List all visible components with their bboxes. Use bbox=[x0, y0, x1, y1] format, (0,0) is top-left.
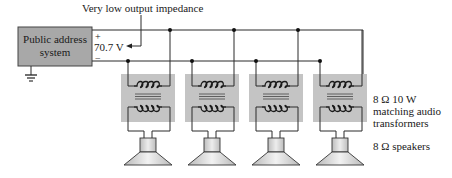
buses bbox=[92, 30, 363, 74]
junction-dot bbox=[296, 28, 300, 32]
speaker-cone bbox=[316, 152, 364, 165]
junction-dot bbox=[232, 28, 236, 32]
source-label-line1: Public address bbox=[23, 33, 87, 45]
source-label-line2: system bbox=[40, 46, 71, 58]
minus-sign: − bbox=[95, 53, 101, 64]
public-address-system: Public address system bbox=[18, 27, 92, 66]
junction-dot bbox=[254, 59, 258, 63]
plus-bus bbox=[92, 30, 363, 74]
transformer-speaker-unit bbox=[249, 28, 303, 165]
ground-symbol-icon bbox=[25, 66, 37, 81]
speaker-magnet bbox=[268, 138, 284, 152]
speaker-icon bbox=[188, 138, 236, 165]
speaker-label: 8 Ω speakers bbox=[373, 140, 430, 152]
speaker-magnet bbox=[204, 138, 220, 152]
speaker-cone bbox=[188, 152, 236, 165]
junction-dot bbox=[126, 59, 130, 63]
speaker-cone bbox=[124, 152, 172, 165]
junction-dot bbox=[318, 59, 322, 63]
speaker-icon bbox=[124, 138, 172, 165]
speaker-icon bbox=[252, 138, 300, 165]
transformer-block bbox=[185, 74, 239, 122]
speaker-icon bbox=[316, 138, 364, 165]
transformer-block bbox=[313, 74, 367, 122]
transformer-block bbox=[121, 74, 175, 122]
output-voltage: 70.7 V bbox=[94, 41, 124, 53]
junction-dot bbox=[168, 28, 172, 32]
transformer-speaker-unit bbox=[121, 28, 175, 165]
transformer-label-line3: transformers bbox=[373, 117, 429, 129]
public-address-diagram: Public address system + 70.7 V − Very lo… bbox=[0, 0, 452, 178]
speaker-magnet bbox=[140, 138, 156, 152]
speaker-magnet bbox=[332, 138, 348, 152]
output-terminals: + 70.7 V − bbox=[94, 31, 124, 64]
arrowhead-icon bbox=[126, 44, 132, 49]
transformer-block bbox=[249, 74, 303, 122]
transformer-label-line1: 8 Ω 10 W bbox=[373, 93, 417, 105]
junction-dot bbox=[190, 59, 194, 63]
speaker-cone bbox=[252, 152, 300, 165]
transformer-speaker-unit bbox=[185, 28, 239, 165]
transformer-speaker-unit bbox=[313, 30, 367, 165]
annotation-text: Very low output impedance bbox=[82, 2, 203, 14]
transformer-label: 8 Ω 10 W matching audio transformers bbox=[373, 93, 442, 129]
transformer-speaker-units bbox=[121, 28, 367, 165]
transformer-label-line2: matching audio bbox=[373, 105, 442, 117]
